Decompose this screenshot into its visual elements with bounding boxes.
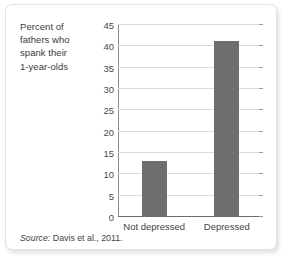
- x-category-label: Not depressed: [123, 221, 185, 232]
- y-tick-mark: [259, 152, 263, 153]
- y-tick-mark: [259, 173, 263, 174]
- y-tick-label: 30: [103, 84, 114, 95]
- y-tick-mark: [259, 195, 263, 196]
- y-tick-label: 45: [103, 20, 114, 31]
- y-tick-label: 25: [103, 105, 114, 116]
- bar: [142, 161, 167, 216]
- source-citation: Davis et al., 2011.: [53, 233, 123, 243]
- source-label: Source:: [20, 233, 50, 243]
- y-tick-label: 15: [103, 148, 114, 159]
- bar: [214, 41, 239, 216]
- gridline: [118, 24, 263, 25]
- x-category-label: Depressed: [204, 221, 250, 232]
- y-tick-mark: [259, 216, 263, 217]
- y-tick-label: 40: [103, 41, 114, 52]
- gridline: [118, 216, 263, 217]
- y-tick-mark: [259, 24, 263, 25]
- y-tick-mark: [259, 45, 263, 46]
- gridline: [118, 88, 263, 89]
- y-axis-caption-line-3: spank their: [20, 46, 106, 59]
- y-tick-mark: [259, 67, 263, 68]
- y-tick-label: 35: [103, 62, 114, 73]
- bar-chart-plot: 051015202530354045Not depressedDepressed: [113, 25, 263, 217]
- y-tick-label: 5: [109, 190, 114, 201]
- y-axis-caption: Percent of fathers who spank their 1-yea…: [20, 20, 106, 73]
- y-tick-label: 20: [103, 126, 114, 137]
- y-axis-caption-line-4: 1-year-olds: [20, 60, 106, 73]
- source-note: Source: Davis et al., 2011.: [20, 233, 123, 243]
- gridline: [118, 131, 263, 132]
- plot-inner-area: 051015202530354045Not depressedDepressed: [118, 25, 263, 217]
- gridline: [118, 173, 263, 174]
- figure-card: Percent of fathers who spank their 1-yea…: [5, 4, 277, 250]
- y-tick-mark: [259, 109, 263, 110]
- y-tick-mark: [259, 88, 263, 89]
- gridline: [118, 195, 263, 196]
- gridline: [118, 109, 263, 110]
- gridline: [118, 67, 263, 68]
- y-tick-label: 0: [109, 212, 114, 223]
- y-tick-mark: [259, 131, 263, 132]
- gridline: [118, 152, 263, 153]
- gridline: [118, 45, 263, 46]
- y-tick-label: 10: [103, 169, 114, 180]
- y-axis-caption-line-1: Percent of: [20, 20, 106, 33]
- y-axis-caption-line-2: fathers who: [20, 33, 106, 46]
